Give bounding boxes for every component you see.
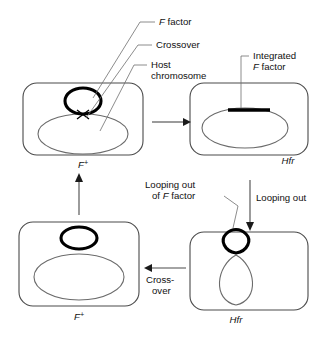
callout-host-chromosome-line2: chromosome bbox=[151, 70, 206, 81]
cell-top-right: Hfr bbox=[190, 83, 308, 166]
callout-integrated-line2: F factor bbox=[253, 61, 286, 72]
cell-outline-top-right bbox=[190, 83, 308, 155]
state-label-bottom-right: Hfr bbox=[230, 314, 244, 325]
callout-integrated-line1: Integrated bbox=[253, 50, 296, 61]
state-label-top-right: Hfr bbox=[282, 155, 296, 166]
arrow-head-up bbox=[75, 173, 83, 182]
leader-looping-out-of-f bbox=[224, 196, 238, 228]
flow-arrow-top-right bbox=[152, 118, 191, 126]
state-label-bottom-left: F+ bbox=[74, 311, 84, 323]
cell-bottom-right: Hfr bbox=[190, 230, 308, 326]
f-factor-cycle-diagram: F+ Hfr Hfr F+ bbox=[0, 0, 324, 341]
callout-crossover: Crossover bbox=[156, 39, 201, 50]
cell-outline-top-left bbox=[23, 83, 143, 155]
callout-looping-out-of-f-line2: of F factor bbox=[152, 190, 196, 201]
flow-arrow-up-left bbox=[75, 173, 83, 215]
callout-crossover-wrap-line1: Cross- bbox=[146, 274, 174, 285]
callout-f-factor: F factor bbox=[159, 16, 192, 27]
callout-looping-out-of-f-line1: Looping out bbox=[145, 179, 195, 190]
arrow-head-left bbox=[144, 264, 152, 272]
arrow-head-down bbox=[246, 222, 254, 231]
flow-arrow-bottom-left bbox=[144, 264, 186, 272]
callout-looping-out: Looping out bbox=[256, 192, 306, 203]
callout-crossover-wrap-line2: over bbox=[152, 285, 171, 296]
cell-outline-bottom-left bbox=[19, 222, 139, 306]
figure-root: F+ Hfr Hfr F+ bbox=[0, 0, 324, 341]
cell-bottom-left: F+ bbox=[19, 222, 139, 322]
callout-host-chromosome-line1: Host bbox=[151, 59, 171, 70]
flow-arrow-down-right bbox=[246, 180, 254, 231]
state-label-top-left: F+ bbox=[78, 159, 88, 171]
cell-top-left: F+ bbox=[23, 83, 143, 170]
